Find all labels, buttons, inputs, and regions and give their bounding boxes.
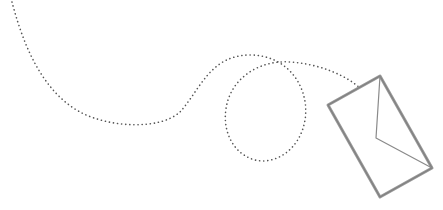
dotted-path — [12, 2, 360, 161]
mail-illustration — [0, 0, 443, 210]
envelope-icon — [328, 76, 432, 197]
illustration-canvas — [0, 0, 443, 210]
